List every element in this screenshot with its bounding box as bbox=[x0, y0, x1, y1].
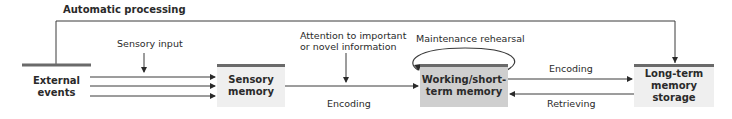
retrieving-label: Retrieving bbox=[547, 98, 595, 109]
external-to-sensory-arrows bbox=[90, 77, 215, 96]
long-term-memory-line1: Long-term bbox=[634, 68, 714, 80]
external-events-line1: External bbox=[22, 75, 91, 87]
sensory-memory-line2: memory bbox=[228, 86, 274, 98]
long-term-memory-box: Long-term memory storage bbox=[634, 64, 714, 107]
sensory-input-label: Sensory input bbox=[117, 38, 183, 49]
long-term-memory-line2: memory storage bbox=[634, 80, 714, 104]
encoding-label-2: Encoding bbox=[549, 63, 593, 74]
attention-label-line2: or novel information bbox=[300, 41, 396, 52]
attention-label-line1: Attention to important bbox=[300, 30, 396, 41]
external-events-node: External events bbox=[22, 75, 91, 99]
working-memory-line1: Working/short- bbox=[422, 74, 506, 86]
sensory-memory-box: Sensory memory bbox=[217, 64, 285, 107]
automatic-processing-label: Automatic processing bbox=[63, 4, 186, 15]
maintenance-rehearsal-label: Maintenance rehearsal bbox=[416, 33, 525, 44]
sensory-memory-line1: Sensory bbox=[228, 74, 274, 86]
working-memory-line2: term memory bbox=[422, 86, 506, 98]
external-events-line2: events bbox=[22, 87, 91, 99]
encoding-label-1: Encoding bbox=[327, 98, 371, 109]
attention-label: Attention to important or novel informat… bbox=[300, 30, 396, 52]
working-memory-box: Working/short- term memory bbox=[420, 64, 508, 107]
